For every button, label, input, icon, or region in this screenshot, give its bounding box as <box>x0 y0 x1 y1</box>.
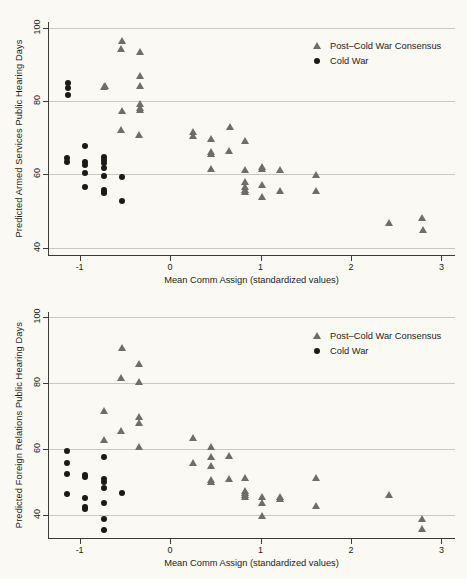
data-point-post-cold-war <box>117 427 125 434</box>
data-point-post-cold-war <box>207 165 215 172</box>
data-point-post-cold-war <box>135 443 143 450</box>
x-tick-label: 0 <box>160 262 180 272</box>
data-point-cold-war <box>101 190 107 196</box>
data-point-cold-war <box>65 85 71 91</box>
data-point-cold-war <box>101 485 107 491</box>
data-point-post-cold-war <box>135 378 143 385</box>
legend-top: Post–Cold War Consensus Cold War <box>312 38 441 68</box>
legend-item-consensus: Post–Cold War Consensus <box>312 38 441 53</box>
data-point-post-cold-war <box>241 474 249 481</box>
legend-item-coldwar: Cold War <box>312 53 441 68</box>
triangle-icon <box>312 42 321 49</box>
y-axis-line <box>48 22 49 255</box>
gridline-y <box>48 383 455 384</box>
data-point-post-cold-war <box>241 188 249 195</box>
x-tick-label: 2 <box>341 262 361 272</box>
data-point-post-cold-war <box>241 493 249 500</box>
data-point-post-cold-war <box>258 499 266 506</box>
gridline-y <box>48 174 455 175</box>
legend-label-consensus: Post–Cold War Consensus <box>330 41 441 51</box>
y-tick-label: 60 <box>32 437 42 459</box>
data-point-post-cold-war <box>117 126 125 133</box>
data-point-post-cold-war <box>312 171 320 178</box>
data-point-post-cold-war <box>100 436 108 443</box>
x-tick-label: 2 <box>341 545 361 555</box>
data-point-post-cold-war <box>117 45 125 52</box>
data-point-post-cold-war <box>189 459 197 466</box>
x-tick <box>261 539 262 544</box>
x-tick-label: 1 <box>251 545 271 555</box>
data-point-post-cold-war <box>418 525 426 532</box>
data-point-post-cold-war <box>135 419 143 426</box>
y-tick-label: 100 <box>32 305 42 327</box>
x-axis-label-bottom: Mean Comm Assign (standardized values) <box>48 558 455 568</box>
x-tick <box>441 539 442 544</box>
data-point-post-cold-war <box>118 37 126 44</box>
y-tick-label: 60 <box>32 162 42 184</box>
data-point-post-cold-war <box>276 166 284 173</box>
data-point-cold-war <box>82 184 88 190</box>
y-tick-label: 80 <box>32 371 42 393</box>
x-tick-label: -1 <box>70 262 90 272</box>
data-point-post-cold-war <box>241 137 249 144</box>
legend-label-coldwar: Cold War <box>330 346 368 356</box>
circle-icon <box>312 58 321 64</box>
x-tick-label: -1 <box>70 545 90 555</box>
data-point-post-cold-war <box>241 166 249 173</box>
data-point-post-cold-war <box>418 515 426 522</box>
data-point-post-cold-war <box>225 475 233 482</box>
x-tick-label: 1 <box>251 262 271 272</box>
data-point-cold-war <box>64 448 70 454</box>
data-point-post-cold-war <box>189 434 197 441</box>
data-point-post-cold-war <box>419 226 427 233</box>
gridline-y <box>48 449 455 450</box>
data-point-post-cold-war <box>136 106 144 113</box>
gridline-y <box>48 101 455 102</box>
data-point-post-cold-war <box>117 374 125 381</box>
legend-item-coldwar: Cold War <box>312 343 441 358</box>
data-point-post-cold-war <box>312 502 320 509</box>
data-point-post-cold-war <box>136 72 144 79</box>
data-point-post-cold-war <box>135 360 143 367</box>
x-tick <box>170 539 171 544</box>
data-point-post-cold-war <box>385 219 393 226</box>
data-point-post-cold-war <box>135 131 143 138</box>
data-point-post-cold-war <box>118 344 126 351</box>
x-axis-line <box>48 538 455 539</box>
chart-panel-armed-services: Predicted Armed Services Public Hearing … <box>0 0 467 289</box>
x-tick <box>351 539 352 544</box>
y-axis-label-top: Predicted Armed Services Public Hearing … <box>14 22 24 255</box>
data-point-post-cold-war <box>276 187 284 194</box>
data-point-post-cold-war <box>258 181 266 188</box>
data-point-post-cold-war <box>189 132 197 139</box>
data-point-post-cold-war <box>258 193 266 200</box>
legend-item-consensus: Post–Cold War Consensus <box>312 328 441 343</box>
y-axis-line <box>48 312 49 538</box>
legend-label-consensus: Post–Cold War Consensus <box>330 331 441 341</box>
data-point-post-cold-war <box>225 452 233 459</box>
triangle-icon <box>312 332 321 339</box>
x-tick-label: 3 <box>431 545 451 555</box>
data-point-post-cold-war <box>276 495 284 502</box>
gridline-y <box>48 317 455 318</box>
data-point-cold-war <box>82 474 88 480</box>
data-point-post-cold-war <box>207 478 215 485</box>
data-point-post-cold-war <box>100 407 108 414</box>
data-point-post-cold-war <box>207 443 215 450</box>
data-point-post-cold-war <box>258 165 266 172</box>
data-point-post-cold-war <box>225 147 233 154</box>
x-tick <box>441 256 442 261</box>
x-tick <box>261 256 262 261</box>
x-tick <box>80 256 81 261</box>
data-point-post-cold-war <box>258 512 266 519</box>
data-point-post-cold-war <box>418 214 426 221</box>
data-point-cold-war <box>82 162 88 168</box>
data-point-cold-war <box>64 159 70 165</box>
x-tick <box>80 539 81 544</box>
circle-icon <box>312 348 321 354</box>
y-tick-label: 100 <box>32 16 42 38</box>
data-point-post-cold-war <box>207 150 215 157</box>
data-point-post-cold-war <box>207 453 215 460</box>
data-point-post-cold-war <box>385 491 393 498</box>
data-point-post-cold-war <box>100 83 108 90</box>
